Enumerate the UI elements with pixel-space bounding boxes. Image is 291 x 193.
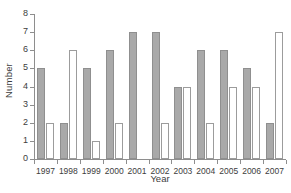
bar-group xyxy=(106,14,123,159)
bar-group xyxy=(60,14,77,159)
x-axis-tick-mark xyxy=(80,160,81,164)
bar-chart-figure: Number 012345678 19971998199920002001200… xyxy=(0,0,291,193)
bar xyxy=(252,87,260,160)
bar xyxy=(152,32,160,159)
y-axis-title: Number xyxy=(0,0,16,160)
bar xyxy=(37,68,45,159)
x-axis-tick-mark xyxy=(217,160,218,164)
y-axis-tick-label: 8 xyxy=(23,8,28,19)
y-axis-tick-label: 7 xyxy=(23,26,28,37)
x-axis-tick-mark xyxy=(34,160,35,164)
bar xyxy=(115,123,123,159)
bar-group xyxy=(220,14,237,159)
bar xyxy=(174,87,182,160)
x-axis-tick-mark xyxy=(126,160,127,164)
y-axis-tick-label: 4 xyxy=(23,81,28,92)
y-axis-tick-label: 6 xyxy=(23,44,28,55)
bar xyxy=(197,50,205,159)
bar xyxy=(206,123,214,159)
x-axis-tick-mark xyxy=(149,160,150,164)
bar-group xyxy=(197,14,214,159)
bar xyxy=(69,50,77,159)
y-axis-tick-mark xyxy=(30,141,34,142)
bar xyxy=(275,32,283,159)
y-axis-tick-label: 2 xyxy=(23,117,28,128)
bar-group xyxy=(174,14,191,159)
y-axis-tick-mark xyxy=(30,50,34,51)
plot-area: 012345678 199719981999200020012002200320… xyxy=(34,14,286,160)
x-axis-tick-mark xyxy=(286,160,287,164)
bar xyxy=(106,50,114,159)
bar-group xyxy=(243,14,260,159)
y-axis-tick-mark xyxy=(30,68,34,69)
y-axis-tick-label: 3 xyxy=(23,99,28,110)
bar xyxy=(60,123,68,159)
bar-group xyxy=(266,14,283,159)
y-axis-tick-mark xyxy=(30,14,34,15)
bar-group xyxy=(83,14,100,159)
y-axis-tick-mark xyxy=(30,105,34,106)
x-axis-tick-mark xyxy=(57,160,58,164)
x-axis-tick-mark xyxy=(103,160,104,164)
y-axis-line xyxy=(34,14,35,160)
bar xyxy=(266,123,274,159)
y-axis-tick-label: 1 xyxy=(23,135,28,146)
bar-group xyxy=(152,14,169,159)
bar xyxy=(46,123,54,159)
bar xyxy=(161,123,169,159)
bar xyxy=(243,68,251,159)
bar xyxy=(129,32,137,159)
y-axis-tick-label: 0 xyxy=(23,153,28,164)
bar xyxy=(220,50,228,159)
bar xyxy=(229,87,237,160)
x-axis-tick-mark xyxy=(194,160,195,164)
y-axis-tick-mark xyxy=(30,123,34,124)
x-axis-tick-mark xyxy=(240,160,241,164)
bar-group xyxy=(129,14,146,159)
bar xyxy=(83,68,91,159)
bar xyxy=(183,87,191,160)
x-axis-tick-mark xyxy=(263,160,264,164)
y-axis-tick-mark xyxy=(30,32,34,33)
y-axis-tick-mark xyxy=(30,87,34,88)
y-axis-tick-label: 5 xyxy=(23,62,28,73)
x-axis-tick-mark xyxy=(171,160,172,164)
y-axis-title-label: Number xyxy=(3,63,14,98)
x-axis-title: Year xyxy=(34,173,286,184)
bar-group xyxy=(37,14,54,159)
x-axis-line xyxy=(34,159,286,160)
bar xyxy=(92,141,100,159)
